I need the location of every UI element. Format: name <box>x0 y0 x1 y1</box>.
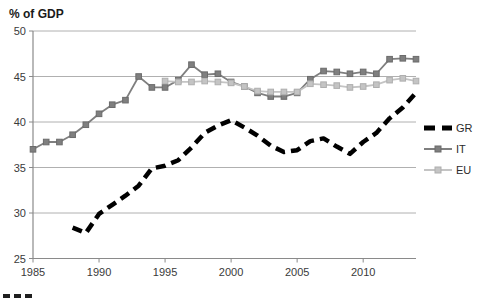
x-tick-label: 2000 <box>219 266 243 278</box>
data-point-marker-IT <box>374 71 380 77</box>
x-tick-label: 2005 <box>285 266 309 278</box>
chart-canvas: 253035404550198519901995200020052010GRIT… <box>0 0 481 298</box>
data-point-marker-EU <box>281 89 287 95</box>
data-point-marker-IT <box>70 132 76 138</box>
data-point-marker-IT <box>347 71 353 77</box>
legend-item-IT: IT <box>424 143 466 155</box>
series-line-GR <box>73 93 416 233</box>
data-point-marker-EU <box>189 79 195 85</box>
x-tick-label: 1990 <box>87 266 111 278</box>
data-point-marker-IT <box>57 139 63 145</box>
data-point-marker-IT <box>83 122 89 128</box>
data-point-marker-IT <box>149 85 155 91</box>
data-point-marker-IT <box>413 56 419 62</box>
y-tick-label: 50 <box>14 25 26 37</box>
data-point-marker-IT <box>123 97 129 103</box>
data-point-marker-EU <box>347 85 353 91</box>
data-point-marker-IT <box>360 69 366 75</box>
data-point-marker-IT <box>96 111 102 117</box>
series-line-IT <box>33 58 416 149</box>
data-point-marker-IT <box>30 147 36 153</box>
data-point-marker-EU <box>255 88 261 94</box>
data-point-marker-EU <box>175 79 181 85</box>
data-point-marker-IT <box>189 62 195 68</box>
data-point-marker-IT <box>109 102 115 108</box>
data-point-marker-IT <box>321 68 327 74</box>
data-point-marker-EU <box>400 76 406 82</box>
y-tick-label: 35 <box>14 162 26 174</box>
legend-marker-IT <box>435 146 441 152</box>
data-point-marker-EU <box>228 80 234 86</box>
data-point-marker-IT <box>202 72 208 78</box>
data-point-marker-IT <box>400 56 406 62</box>
y-tick-label: 45 <box>14 71 26 83</box>
y-tick-label: 25 <box>14 253 26 265</box>
data-point-marker-IT <box>136 74 142 80</box>
y-tick-label: 30 <box>14 207 26 219</box>
x-tick-label: 2010 <box>351 266 375 278</box>
legend-marker-EU <box>435 167 441 173</box>
data-point-marker-IT <box>387 56 393 62</box>
data-point-marker-EU <box>268 89 274 95</box>
data-point-marker-EU <box>374 82 380 88</box>
x-tick-label: 1995 <box>153 266 177 278</box>
data-point-marker-EU <box>413 78 419 84</box>
data-point-marker-EU <box>387 77 393 83</box>
legend-item-EU: EU <box>424 164 471 176</box>
legend-item-GR: GR <box>424 122 473 134</box>
legend-label-IT: IT <box>456 143 466 155</box>
x-tick-label: 1985 <box>21 266 45 278</box>
data-point-marker-EU <box>202 78 208 84</box>
data-point-marker-EU <box>321 82 327 88</box>
data-point-marker-IT <box>43 139 49 145</box>
data-point-marker-EU <box>162 78 168 84</box>
data-point-marker-EU <box>294 89 300 95</box>
data-point-marker-IT <box>215 71 221 77</box>
data-point-marker-EU <box>215 79 221 85</box>
clipped-caption-artifact <box>3 294 34 298</box>
data-point-marker-EU <box>334 83 340 89</box>
y-tick-label: 40 <box>14 116 26 128</box>
legend-label-GR: GR <box>456 122 473 134</box>
data-point-marker-EU <box>242 84 248 90</box>
chart-figure: % of GDP 2530354045501985199019952000200… <box>0 0 481 298</box>
data-point-marker-IT <box>162 85 168 91</box>
data-point-marker-IT <box>334 69 340 75</box>
data-point-marker-EU <box>360 84 366 90</box>
data-point-marker-EU <box>308 81 314 87</box>
legend-label-EU: EU <box>456 164 471 176</box>
